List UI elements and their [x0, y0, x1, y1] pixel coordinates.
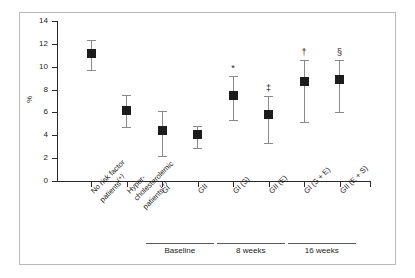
group-label: 8 weeks	[217, 246, 285, 256]
y-tick-label-wrap: 2	[18, 154, 48, 162]
error-bar-line	[304, 60, 305, 122]
y-tick-label-wrap: 14	[18, 17, 48, 25]
y-tick-label: 6	[18, 108, 48, 116]
significance-marker: ‡	[259, 84, 279, 93]
error-bar-cap-lower	[264, 143, 273, 144]
error-bar-cap-upper	[300, 60, 309, 61]
y-tick-label: 2	[18, 154, 48, 162]
y-tick	[52, 90, 57, 91]
error-bar-line	[268, 96, 269, 143]
y-tick-label: 14	[18, 17, 48, 25]
error-bar-cap-upper	[335, 60, 344, 61]
y-tick	[52, 135, 57, 136]
error-bar-line	[339, 60, 340, 113]
y-tick-label: 12	[18, 40, 48, 48]
y-tick-label: 10	[18, 63, 48, 71]
error-bar-cap-lower	[335, 112, 344, 113]
significance-marker: §	[330, 48, 350, 57]
y-axis-line	[57, 21, 58, 182]
group-label: Baseline	[146, 246, 214, 256]
group-rule	[146, 243, 214, 244]
error-bar-cap-lower	[193, 148, 202, 149]
group-rule	[217, 243, 285, 244]
error-bar-cap-upper	[193, 126, 202, 127]
marker-square	[158, 126, 167, 135]
marker-square	[335, 75, 344, 84]
y-tick-label: 4	[18, 131, 48, 139]
x-tick-end	[370, 182, 371, 187]
error-bar-cap-upper	[229, 76, 238, 77]
error-bar-cap-upper	[87, 40, 96, 41]
marker-square	[193, 130, 202, 139]
y-tick	[52, 44, 57, 45]
y-tick-label-wrap: 10	[18, 63, 48, 71]
y-tick	[52, 112, 57, 113]
marker-square	[229, 91, 238, 100]
error-bar-cap-lower	[229, 120, 238, 121]
error-bar-cap-lower	[87, 70, 96, 71]
y-tick-label-wrap: 8	[18, 86, 48, 94]
error-bar-cap-upper	[122, 95, 131, 96]
y-tick	[52, 21, 57, 22]
y-tick-label-wrap: 0	[18, 177, 48, 185]
y-tick	[52, 181, 57, 182]
significance-marker: *	[223, 64, 243, 73]
marker-square	[264, 110, 273, 119]
y-tick	[52, 67, 57, 68]
error-bar-cap-upper	[264, 96, 273, 97]
marker-square	[122, 106, 131, 115]
y-tick-label-wrap: 4	[18, 131, 48, 139]
significance-marker: †	[294, 48, 314, 57]
group-rule	[288, 243, 356, 244]
error-bar-cap-lower	[158, 156, 167, 157]
y-tick-label-wrap: 12	[18, 40, 48, 48]
y-tick-label: 8	[18, 86, 48, 94]
error-bar-cap-upper	[158, 111, 167, 112]
y-axis-title: %	[25, 93, 34, 107]
error-bar-cap-lower	[300, 122, 309, 123]
error-bar-cap-lower	[122, 127, 131, 128]
y-tick-label-wrap: 6	[18, 108, 48, 116]
figure-root: % 02468101214 *‡†§ No risk factorpatient…	[0, 0, 415, 278]
marker-square	[300, 77, 309, 86]
y-tick-label: 0	[18, 177, 48, 185]
marker-square	[87, 49, 96, 58]
group-label: 16 weeks	[288, 246, 356, 256]
y-tick	[52, 158, 57, 159]
